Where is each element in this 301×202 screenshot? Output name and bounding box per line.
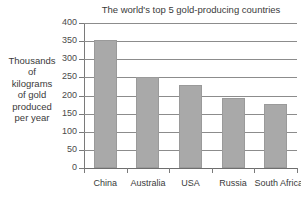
x-axis-tick-label: Australia — [127, 178, 170, 189]
y-axis-tick-label: 50 — [23, 145, 77, 154]
x-axis-tick-label: China — [84, 178, 127, 189]
bar — [264, 104, 287, 168]
y-axis-tick-label: 150 — [23, 109, 77, 118]
x-axis-tick — [84, 168, 85, 173]
bar — [94, 40, 117, 168]
x-axis-tick — [297, 168, 298, 173]
y-axis-tick — [79, 132, 84, 133]
x-axis-tick-label: South Africa — [254, 178, 297, 189]
bar-chart: The world's top 5 gold-producing countri… — [0, 0, 301, 202]
y-axis-tick-label: 0 — [23, 163, 77, 172]
bar — [136, 77, 159, 168]
y-axis-tick — [79, 150, 84, 151]
y-axis-tick-label: 100 — [23, 127, 77, 136]
x-axis-tick — [212, 168, 213, 173]
y-axis-tick — [79, 77, 84, 78]
x-axis-tick-label: USA — [169, 178, 212, 189]
plot-area — [84, 23, 297, 168]
y-axis-tick-label: 300 — [23, 54, 77, 63]
x-axis-ticks — [84, 168, 297, 174]
y-axis-tick-label: 250 — [23, 72, 77, 81]
x-axis-tick — [254, 168, 255, 173]
chart-title: The world's top 5 gold-producing countri… — [84, 4, 298, 15]
y-axis-tick-labels: 400350300250200150100500 — [20, 0, 77, 202]
x-axis-tick — [169, 168, 170, 173]
y-axis-tick — [79, 41, 84, 42]
x-axis-tick-labels: ChinaAustraliaUSARussiaSouth Africa — [84, 178, 297, 192]
x-axis-tick-label: Russia — [212, 178, 255, 189]
y-axis-tick — [79, 59, 84, 60]
y-axis-tick-label: 200 — [23, 91, 77, 100]
x-axis-tick — [127, 168, 128, 173]
y-axis-tick — [79, 168, 84, 169]
bar — [179, 85, 202, 168]
gridline — [84, 23, 297, 24]
y-axis-tick — [79, 114, 84, 115]
y-axis-tick-label: 350 — [23, 36, 77, 45]
y-axis-tick — [79, 23, 84, 24]
bar — [222, 98, 245, 168]
y-axis-tick — [79, 96, 84, 97]
y-axis-tick-label: 400 — [23, 18, 77, 27]
